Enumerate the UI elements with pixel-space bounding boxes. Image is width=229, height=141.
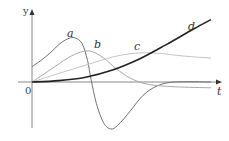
t-axis-arrow-icon — [216, 80, 222, 85]
origin-label: 0 — [25, 85, 31, 96]
curve-label-a: a — [67, 27, 74, 40]
y-axis-label: y — [22, 5, 29, 16]
curve-label-b: b — [94, 38, 101, 51]
t-axis-label: t — [217, 85, 222, 98]
curve-a — [32, 37, 211, 129]
curve-label-c: c — [134, 40, 140, 53]
diagram: y 0 t a b c d — [0, 0, 229, 141]
curves — [32, 20, 211, 129]
y-axis-arrow-icon — [30, 9, 35, 15]
curve-label-d: d — [188, 20, 195, 33]
